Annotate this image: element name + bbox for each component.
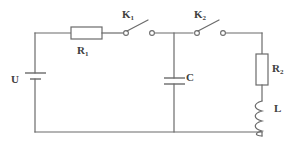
label-capacitor-c: C xyxy=(186,72,194,83)
switch-k2-right-terminal-icon[interactable] xyxy=(221,31,226,36)
circuit-schematic-canvas xyxy=(0,0,294,149)
label-switch-k1: K1 xyxy=(122,9,134,22)
label-resistor-r1: R1 xyxy=(77,45,88,58)
switch-k2-lever-icon[interactable] xyxy=(198,20,219,31)
resistor-r2-body-icon xyxy=(256,54,268,85)
label-switch-k2: K2 xyxy=(194,9,206,22)
switch-k1-right-terminal-icon[interactable] xyxy=(150,31,155,36)
inductor-l-coil-icon xyxy=(255,101,262,136)
label-inductor-l: L xyxy=(274,103,281,114)
label-resistor-r2: R2 xyxy=(272,63,283,76)
circuit-diagram: U R1 K1 K2 C R2 L xyxy=(0,0,294,149)
resistor-r1-body-icon xyxy=(71,27,102,39)
label-source-u: U xyxy=(11,74,19,85)
switch-k1-lever-icon[interactable] xyxy=(127,20,148,31)
